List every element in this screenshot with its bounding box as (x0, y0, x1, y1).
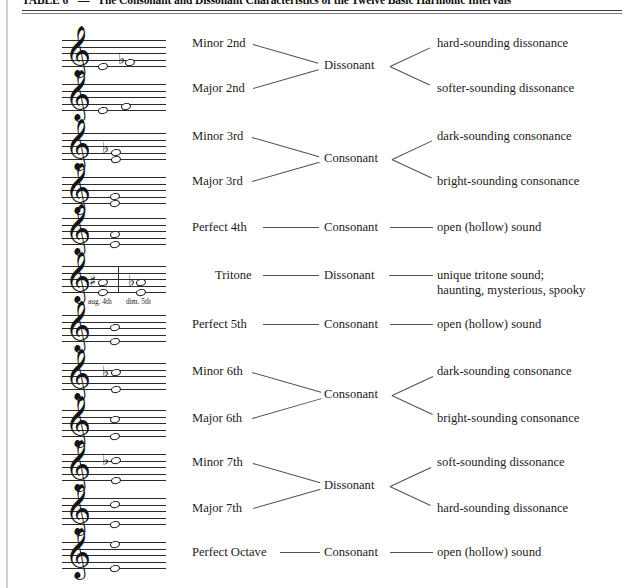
page-edge-artifact (6, 0, 8, 588)
note-head (97, 106, 108, 115)
treble-clef-icon: 𝄞 (65, 303, 91, 347)
interval-label-major-3rd: Major 3rd (192, 174, 243, 189)
flat-icon: ♭ (102, 365, 109, 380)
connector-line (390, 47, 430, 67)
connector-line (389, 275, 433, 276)
treble-clef-icon: 𝄞 (65, 254, 91, 298)
caption-rule-thick (22, 10, 622, 11)
connector-line (390, 467, 431, 487)
connector-line (263, 227, 319, 228)
interval-label-perfect-5th: Perfect 5th (192, 317, 247, 332)
connector-line (253, 44, 319, 64)
interval-label-major-6th: Major 6th (192, 411, 242, 426)
treble-clef-icon: 𝄞 (65, 121, 91, 165)
class-label-dissonant-2nds: Dissonant (324, 58, 374, 73)
interval-label-minor-6th: Minor 6th (192, 364, 243, 379)
note-head (110, 456, 121, 465)
note-head (110, 476, 121, 485)
treble-clef-icon: 𝄞 (65, 398, 91, 442)
treble-clef-icon: 𝄞 (65, 72, 91, 116)
connector-line (390, 552, 433, 553)
staff-minor-2nd: 𝄞 ♭ (62, 40, 166, 66)
note-head (135, 288, 146, 297)
note-head (109, 337, 120, 346)
table-caption-title: The Consonant and Dissonant Characterist… (97, 0, 511, 6)
treble-clef-icon: 𝄞 (65, 351, 91, 395)
connector-line (390, 227, 433, 228)
connector-line (390, 66, 430, 86)
interval-label-perfect-octave: Perfect Octave (192, 545, 266, 560)
staff-major-7th: 𝄞 (62, 498, 166, 524)
connector-line (253, 69, 319, 89)
connector-line (392, 140, 432, 160)
class-label-consonant-p4: Consonant (324, 220, 378, 235)
connector-line (252, 372, 321, 393)
connector-line (390, 324, 433, 325)
barline (118, 266, 119, 292)
description-label-softer-dissonance: softer-sounding dissonance (437, 81, 574, 96)
staff-perfect-5th: 𝄞 (62, 315, 166, 341)
staff-sublabel-dim5: dim. 5th (126, 297, 151, 306)
description-label-open-hollow-p5: open (hollow) sound (437, 317, 541, 332)
flat-icon: ♭ (128, 274, 135, 289)
description-label-hard-dissonance: hard-sounding dissonance (437, 36, 568, 51)
note-head (109, 500, 120, 509)
class-label-dissonant-7ths: Dissonant (324, 478, 374, 493)
note-head (109, 432, 120, 441)
note-head (109, 564, 120, 573)
interval-label-major-2nd: Major 2nd (192, 81, 245, 96)
description-label-dark-consonance-3rd: dark-sounding consonance (437, 129, 572, 144)
table-figure: TABLE 6—The Consonant and Dissonant Char… (0, 0, 631, 588)
note-head (109, 323, 120, 332)
flat-icon: ♭ (102, 141, 109, 156)
treble-clef-icon: 𝄞 (65, 206, 91, 250)
connector-line (253, 463, 321, 483)
description-label-tritone: unique tritone sound; haunting, mysterio… (437, 268, 585, 297)
interval-label-perfect-4th: Perfect 4th (192, 220, 247, 235)
treble-clef-icon: 𝄞 (65, 28, 91, 72)
connector-line (252, 137, 320, 157)
description-label-open-hollow-p4: open (hollow) sound (437, 220, 541, 235)
flat-icon: ♭ (118, 52, 125, 67)
staff-minor-6th: 𝄞 ♭ (62, 363, 166, 389)
sharp-icon: ♯ (89, 274, 96, 289)
note-head (110, 385, 121, 394)
class-label-consonant-3rds: Consonant (324, 151, 378, 166)
flat-icon: ♭ (102, 453, 109, 468)
interval-label-major-7th: Major 7th (192, 501, 242, 516)
connector-line (280, 552, 320, 553)
table-caption-dash: — (78, 0, 89, 6)
interval-label-minor-3rd: Minor 3rd (192, 129, 243, 144)
staff-tritone: 𝄞 ♯ ♭ aug. 4th dim. 5th (62, 266, 166, 292)
connector-line (390, 486, 431, 506)
connector-line (263, 275, 319, 276)
staff-perfect-octave: 𝄞 (62, 542, 166, 568)
staff-major-6th: 𝄞 (62, 410, 166, 436)
interval-label-minor-7th: Minor 7th (192, 455, 243, 470)
treble-clef-icon: 𝄞 (65, 530, 91, 574)
description-label-bright-consonance-6th: bright-sounding consonance (437, 411, 579, 426)
connector-line (392, 395, 433, 415)
class-label-consonant-octave: Consonant (324, 545, 378, 560)
treble-clef-icon: 𝄞 (65, 442, 91, 486)
connector-line (252, 162, 320, 182)
connector-line (392, 376, 433, 396)
class-label-consonant-6ths: Consonant (324, 387, 378, 402)
description-label-soft-dissonance-7th: soft-sounding dissonance (437, 455, 565, 470)
note-head (109, 240, 120, 249)
table-caption-label: TABLE 6 (22, 0, 68, 6)
note-head (97, 288, 108, 297)
interval-label-minor-2nd: Minor 2nd (192, 36, 246, 51)
staff-major-3rd: 𝄞 (62, 177, 166, 203)
connector-line (392, 159, 432, 179)
connector-line (252, 398, 321, 419)
description-label-dark-consonance-6th: dark-sounding consonance (437, 364, 572, 379)
staff-perfect-4th: 𝄞 (62, 218, 166, 244)
note-head (109, 520, 120, 529)
note-head (97, 62, 108, 71)
staff-major-2nd: 𝄞 (62, 84, 166, 110)
caption-rule-thin (22, 13, 622, 14)
description-label-hard-dissonance-7th: hard-sounding dissonance (437, 501, 568, 516)
table-caption: TABLE 6—The Consonant and Dissonant Char… (22, 0, 622, 6)
description-label-open-hollow-octave: open (hollow) sound (437, 545, 541, 560)
